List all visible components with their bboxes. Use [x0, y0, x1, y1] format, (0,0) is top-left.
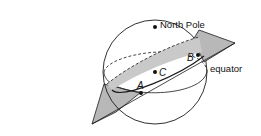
point-a-label: A [136, 80, 144, 91]
point-a [139, 91, 143, 95]
north-pole-point [153, 25, 157, 29]
point-c [153, 70, 157, 74]
north-pole-label: North Pole [160, 19, 205, 30]
point-b [196, 53, 200, 57]
point-b-label: B [187, 52, 194, 63]
great-circle-band [107, 37, 202, 90]
sphere-great-circle-diagram: North Pole equator B C A [0, 0, 261, 136]
plane-lower-left [92, 84, 140, 124]
equator-label: equator [210, 63, 242, 74]
point-c-label: C [159, 67, 167, 78]
